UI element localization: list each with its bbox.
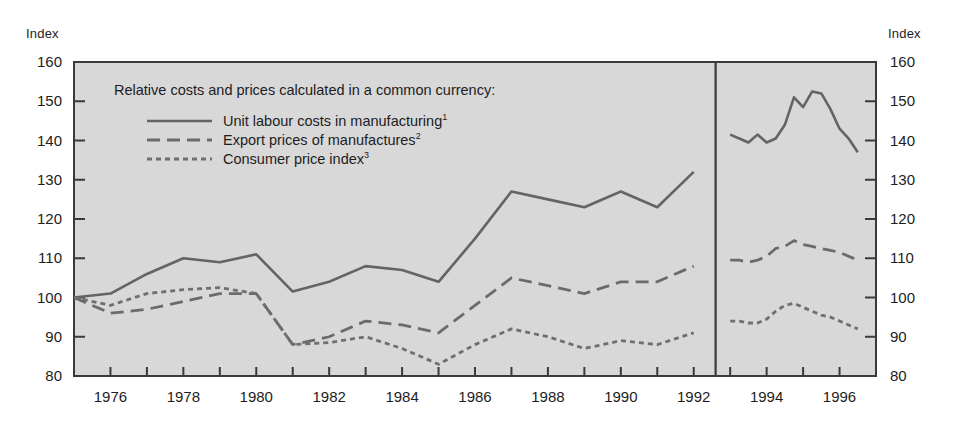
ytick-label: 140: [890, 133, 924, 148]
plot-background: [74, 62, 876, 376]
xtick-label: 1996: [810, 389, 870, 404]
xtick-label: 1982: [299, 389, 359, 404]
ytick-label: 110: [28, 250, 62, 265]
plot-area: [0, 0, 953, 436]
ytick-label: 130: [28, 172, 62, 187]
legend-footnote-marker: 1: [442, 112, 447, 122]
xtick-label: 1990: [591, 389, 651, 404]
xtick-label: 1980: [226, 389, 286, 404]
ytick-label: 130: [890, 172, 924, 187]
legend-title: Relative costs and prices calculated in …: [114, 82, 495, 98]
xtick-label: 1978: [153, 389, 213, 404]
legend-entry-consumer-price-index: Consumer price index3: [223, 150, 369, 167]
legend-label: Consumer price index: [223, 151, 364, 167]
ytick-label: 160: [890, 54, 924, 69]
legend-footnote-marker: 2: [416, 131, 421, 141]
ytick-label: 120: [28, 211, 62, 226]
legend-entry-export-prices: Export prices of manufactures2: [223, 131, 421, 148]
legend-label: Unit labour costs in manufacturing: [223, 113, 442, 129]
ytick-label: 100: [890, 290, 924, 305]
legend-entry-unit-labour-costs: Unit labour costs in manufacturing1: [223, 112, 447, 129]
ytick-label: 80: [890, 368, 924, 383]
chart-figure: Index Index 8090100110120130140150160 80…: [0, 0, 953, 436]
ytick-label: 150: [890, 93, 924, 108]
legend-label: Export prices of manufactures: [223, 132, 416, 148]
ytick-label: 110: [890, 250, 924, 265]
ytick-label: 90: [28, 329, 62, 344]
xtick-label: 1988: [518, 389, 578, 404]
ytick-label: 150: [28, 93, 62, 108]
ytick-label: 90: [890, 329, 924, 344]
ytick-label: 100: [28, 290, 62, 305]
xtick-label: 1986: [445, 389, 505, 404]
bottom-tick-marks: [110, 367, 839, 376]
ytick-label: 120: [890, 211, 924, 226]
ytick-label: 160: [28, 54, 62, 69]
xtick-label: 1994: [737, 389, 797, 404]
xtick-label: 1976: [80, 389, 140, 404]
legend-footnote-marker: 3: [364, 150, 369, 160]
ytick-label: 140: [28, 133, 62, 148]
xtick-label: 1992: [664, 389, 724, 404]
ytick-label: 80: [28, 368, 62, 383]
xtick-label: 1984: [372, 389, 432, 404]
